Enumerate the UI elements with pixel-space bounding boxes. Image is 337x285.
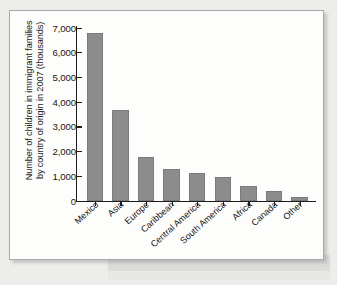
bar xyxy=(87,33,104,201)
bar-chart-figure-panel: Number of children in immigrant families… xyxy=(9,10,324,260)
bar xyxy=(215,177,232,200)
bar xyxy=(112,110,129,201)
bar xyxy=(189,173,206,200)
page-gray-band-lower xyxy=(108,271,330,280)
chart-plot-area: Number of children in immigrant families… xyxy=(10,11,325,261)
bar xyxy=(291,197,308,201)
bar xyxy=(266,191,283,201)
bar xyxy=(240,186,257,201)
bar xyxy=(138,157,155,200)
bar xyxy=(163,169,180,200)
